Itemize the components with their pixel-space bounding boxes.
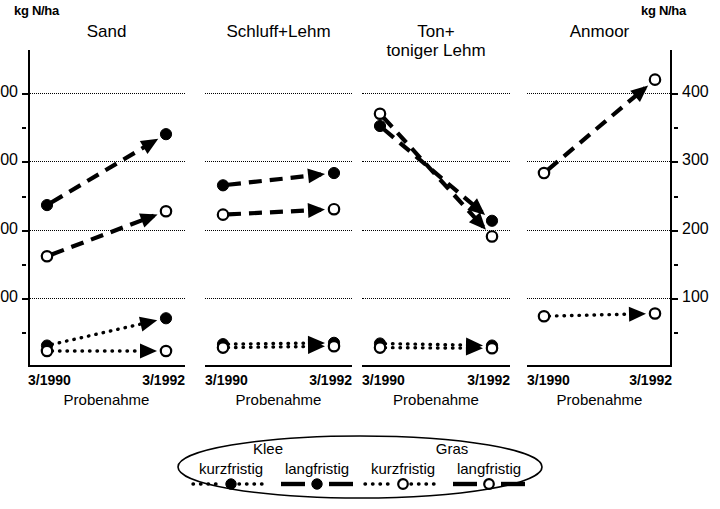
legend-item-marker — [446, 477, 532, 491]
legend-item: kurzfristig — [188, 460, 274, 491]
data-point — [539, 311, 549, 321]
y-tick-label-300: 300 — [0, 151, 18, 169]
legend-item-label: kurzfristig — [188, 460, 274, 477]
legend-item-marker — [274, 477, 360, 491]
y-tick-200 — [672, 230, 678, 232]
legend-items: kurzfristiglangfristigkurzfristiglangfri… — [188, 460, 532, 491]
data-point — [375, 109, 385, 119]
data-point — [487, 231, 497, 241]
data-point — [650, 308, 660, 318]
data-point — [41, 199, 52, 210]
x-tick-labels: 3/19903/1992 — [205, 372, 352, 388]
y-minor-tick-250 — [22, 196, 26, 198]
x-tick-labels: 3/19903/1992 — [527, 372, 672, 388]
data-point — [650, 74, 660, 84]
legend-item: kurzfristig — [360, 460, 446, 491]
series-layer — [362, 66, 510, 366]
legend-item: langfristig — [274, 460, 360, 491]
panel-title: Schluff+Lehm — [205, 22, 352, 41]
y-tick-100 — [672, 298, 678, 300]
x-axis-title: Probenahme — [28, 391, 185, 408]
y-tick-label-100: 100 — [0, 288, 18, 306]
y-minor-tick-350 — [674, 127, 678, 129]
panel-title: Anmoor — [527, 22, 672, 41]
series-layer — [205, 66, 352, 366]
data-point — [42, 346, 52, 356]
plot-area: 100200300400 — [527, 66, 672, 366]
x-axis-title: Probenahme — [527, 391, 672, 408]
data-point — [160, 129, 171, 140]
x-axis-title: Probenahme — [362, 391, 510, 408]
data-point — [539, 168, 549, 178]
series-gras-kurzfristig — [539, 307, 660, 322]
series-gras-langfristig — [375, 109, 497, 242]
legend: Klee Gras kurzfristiglangfristigkurzfris… — [176, 434, 544, 500]
data-point — [329, 341, 339, 351]
series-gras-langfristig — [539, 74, 660, 178]
x-tick-labels: 3/19903/1992 — [28, 372, 185, 388]
y-minor-tick-150 — [22, 264, 26, 266]
y-minor-tick-50 — [674, 332, 678, 334]
data-point — [486, 215, 497, 226]
plot-area — [362, 66, 510, 366]
series-gras-kurzfristig — [42, 344, 171, 359]
x-tick-labels: 3/19903/1992 — [362, 372, 510, 388]
x-tick-label: 3/1990 — [527, 372, 570, 388]
x-tick-label: 3/1992 — [142, 372, 185, 388]
chart-root: kg N/ha kg N/ha Sand1002003004003/19903/… — [0, 0, 720, 509]
x-tick-label: 3/1990 — [205, 372, 248, 388]
data-point — [217, 180, 228, 191]
legend-item-marker — [360, 477, 446, 491]
y-minor-tick-50 — [22, 332, 26, 334]
data-point — [218, 342, 228, 352]
legend-group-gras: Gras — [360, 440, 544, 457]
panel-ton-toniger-lehm: Ton+ toniger Lehm3/19903/1992Probenahme — [362, 0, 510, 409]
data-point — [160, 313, 171, 324]
plot-area: 100200300400 — [28, 66, 185, 366]
series-arrowhead — [308, 203, 325, 218]
data-point — [42, 251, 52, 261]
x-tick-label: 3/1990 — [362, 372, 405, 388]
data-point — [218, 209, 228, 219]
plot-area — [205, 66, 352, 366]
series-gras-langfristig — [218, 203, 339, 220]
panel-title: Ton+ toniger Lehm — [362, 22, 510, 60]
series-klee-kurzfristig — [374, 338, 497, 353]
data-point — [161, 206, 171, 216]
data-point — [161, 346, 171, 356]
y-tick-label-200: 200 — [682, 220, 709, 238]
legend-item-label: kurzfristig — [360, 460, 446, 477]
series-klee-langfristig — [217, 167, 339, 190]
x-tick-label: 3/1992 — [467, 372, 510, 388]
series-gras-langfristig — [42, 206, 171, 261]
y-minor-tick-350 — [22, 127, 26, 129]
x-tick-label: 3/1992 — [309, 372, 352, 388]
x-tick-label: 3/1992 — [629, 372, 672, 388]
x-tick-label: 3/1990 — [28, 372, 71, 388]
y-tick-300 — [672, 161, 678, 163]
series-klee-langfristig — [374, 120, 497, 226]
legend-group-klee: Klee — [176, 440, 360, 457]
series-arrowhead — [307, 168, 325, 183]
legend-item-label: langfristig — [274, 460, 360, 477]
legend-item-marker — [188, 477, 274, 491]
data-point — [374, 120, 385, 131]
panel-title: Sand — [28, 22, 185, 41]
series-arrowhead — [140, 344, 157, 359]
y-tick-label-400: 400 — [0, 83, 18, 101]
y-tick-400 — [672, 93, 678, 95]
panel-schluff-lehm: Schluff+Lehm3/19903/1992Probenahme — [205, 0, 352, 409]
legend-item: langfristig — [446, 460, 532, 491]
series-klee-kurzfristig — [41, 313, 171, 351]
y-tick-label-200: 200 — [0, 220, 18, 238]
series-layer — [28, 66, 185, 366]
series-layer — [527, 66, 672, 366]
y-tick-label-400: 400 — [682, 83, 709, 101]
y-minor-tick-150 — [674, 264, 678, 266]
x-axis-title: Probenahme — [205, 391, 352, 408]
data-point — [328, 167, 339, 178]
series-arrowhead — [139, 213, 158, 227]
data-point — [375, 342, 385, 352]
data-point — [487, 343, 497, 353]
series-klee-langfristig — [41, 129, 171, 211]
